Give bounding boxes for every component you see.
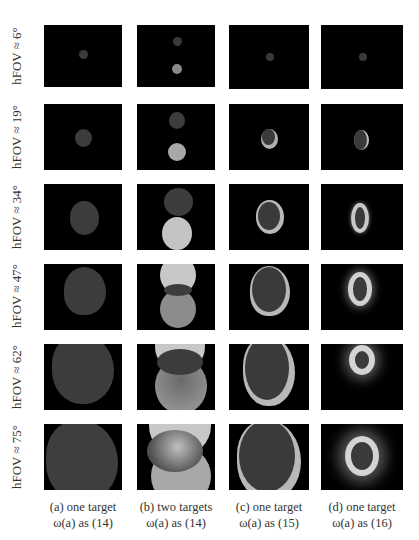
target-shadow — [258, 202, 280, 230]
target-ring — [351, 203, 369, 233]
caption-a-formula: ω(a) as (14) — [33, 515, 133, 531]
target-shadow — [239, 424, 295, 490]
caption-a: (a) one target ω(a) as (14) — [33, 499, 133, 531]
row-label-6: hFOV ≈ 75° — [2, 423, 32, 490]
target-disc — [52, 344, 114, 404]
target-disc — [46, 424, 118, 490]
panel-b-row6 — [137, 424, 215, 490]
target-disc — [79, 50, 88, 59]
panel-c-row4 — [229, 264, 309, 330]
panel-d-row4 — [321, 264, 403, 330]
panel-d-row3 — [321, 184, 403, 250]
caption-a-title: (a) one target — [33, 499, 133, 515]
panel-b-row4 — [137, 264, 215, 330]
panel-b-row5 — [137, 344, 215, 410]
target-disc-bottom — [172, 64, 182, 74]
caption-d: (d) one target ω(a) as (16) — [312, 499, 412, 531]
row-label-2: hFOV ≈ 19° — [2, 103, 32, 170]
target-shadow — [262, 129, 275, 145]
caption-b-formula: ω(a) as (14) — [126, 515, 226, 531]
panel-b-row3 — [137, 184, 215, 250]
row-label-text: hFOV ≈ 47° — [9, 264, 25, 328]
panel-d-row5 — [321, 344, 403, 410]
target-ring — [349, 345, 375, 375]
target-shadow — [354, 130, 367, 150]
panel-c-row2 — [229, 104, 309, 170]
row-label-text: hFOV ≈ 19° — [9, 104, 25, 168]
caption-b: (b) two targets ω(a) as (14) — [126, 499, 226, 531]
target-overlap — [164, 284, 192, 296]
caption-d-formula: ω(a) as (16) — [312, 515, 412, 531]
row-label-text: hFOV ≈ 6° — [9, 27, 25, 85]
row-label-text: hFOV ≈ 34° — [9, 184, 25, 248]
target-overlap — [147, 430, 203, 472]
target-ring — [348, 272, 372, 306]
row-label-3: hFOV ≈ 34° — [2, 183, 32, 250]
target-disc-top — [169, 112, 185, 129]
row-label-text: hFOV ≈ 75° — [9, 424, 25, 488]
panel-c-row6 — [229, 424, 309, 490]
caption-c: (c) one target ω(a) as (15) — [219, 499, 319, 531]
target-disc — [359, 53, 367, 61]
panel-c-row5 — [229, 344, 309, 410]
caption-d-title: (d) one target — [312, 499, 412, 515]
caption-c-title: (c) one target — [219, 499, 319, 515]
target-disc — [70, 201, 99, 235]
panel-a-row6 — [44, 424, 122, 490]
row-label-4: hFOV ≈ 47° — [2, 262, 32, 330]
panel-a-row5 — [44, 344, 122, 410]
row-label-1: hFOV ≈ 6° — [2, 23, 32, 89]
panel-b-row2 — [137, 104, 215, 170]
panel-a-row1 — [44, 25, 122, 87]
panel-c-row1 — [229, 25, 309, 89]
caption-b-title: (b) two targets — [126, 499, 226, 515]
panel-d-row1 — [321, 25, 403, 89]
row-label-5: hFOV ≈ 62° — [2, 343, 32, 410]
target-disc — [75, 129, 92, 147]
panel-a-row4 — [44, 264, 122, 330]
caption-c-formula: ω(a) as (15) — [219, 515, 319, 531]
target-shadow — [252, 267, 286, 312]
target-disc — [266, 53, 274, 61]
target-disc-bottom — [168, 143, 186, 161]
panel-b-row1 — [137, 25, 215, 87]
target-disc-bottom — [162, 217, 192, 250]
panel-c-row3 — [229, 184, 309, 250]
target-disc-top — [164, 188, 193, 216]
panel-d-row6 — [321, 424, 403, 490]
panel-d-row2 — [321, 104, 403, 170]
target-disc — [64, 267, 106, 315]
panel-a-row3 — [44, 184, 122, 250]
panel-a-row2 — [44, 104, 122, 170]
target-overlap — [157, 349, 203, 375]
target-disc-top — [173, 37, 182, 46]
row-label-text: hFOV ≈ 62° — [9, 344, 25, 408]
target-ring — [345, 436, 379, 476]
